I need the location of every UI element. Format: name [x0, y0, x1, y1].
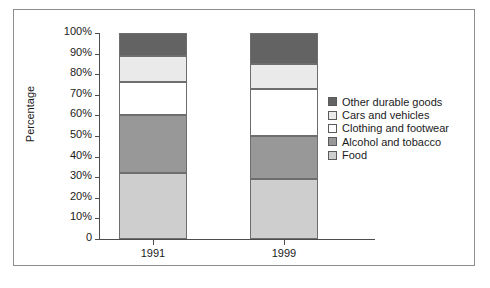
legend-label: Food: [342, 149, 367, 161]
x-axis-line: [99, 239, 375, 240]
y-tick-label: 80%: [70, 66, 92, 78]
y-tick-label: 90%: [70, 46, 92, 58]
chart-legend: Other durable goodsCars and vehiclesClot…: [328, 95, 449, 162]
y-tick-label: 0: [86, 231, 92, 243]
legend-label: Alcohol and tobacco: [342, 136, 441, 148]
bar-segment: [250, 89, 318, 136]
x-tick-label-1999: 1999: [244, 247, 324, 259]
y-tick-label: 100%: [64, 25, 92, 37]
legend-label: Other durable goods: [342, 96, 442, 108]
x-tick-label-1991: 1991: [113, 247, 193, 259]
bar-segment: [119, 115, 187, 173]
bar-segment: [250, 64, 318, 89]
y-tick-label: 20%: [70, 190, 92, 202]
y-tick-mark: [95, 239, 100, 240]
y-tick-label: 70%: [70, 87, 92, 99]
bar-segment: [119, 56, 187, 83]
bar-segment: [250, 33, 318, 64]
legend-item: Food: [328, 149, 449, 162]
x-tick-mark: [153, 240, 154, 245]
y-tick-label: 40%: [70, 149, 92, 161]
y-tick-label: 60%: [70, 107, 92, 119]
legend-swatch: [328, 97, 337, 106]
chart-figure: Percentage 100%90%80%70%60%50%40%30%20%1…: [0, 0, 490, 288]
legend-label: Clothing and footwear: [342, 122, 449, 134]
y-tick-label: 50%: [70, 128, 92, 140]
y-tick-label: 10%: [70, 210, 92, 222]
legend-item: Other durable goods: [328, 95, 449, 108]
legend-swatch: [328, 151, 337, 160]
bar-segment: [119, 173, 187, 239]
legend-swatch: [328, 137, 337, 146]
bar-segment: [119, 33, 187, 56]
bar-segment: [250, 179, 318, 239]
x-tick-mark: [284, 240, 285, 245]
legend-label: Cars and vehicles: [342, 109, 429, 121]
y-tick-label: 30%: [70, 169, 92, 181]
bar-segment: [119, 82, 187, 115]
legend-swatch: [328, 111, 337, 120]
legend-swatch: [328, 124, 337, 133]
y-axis-title: Percentage: [24, 64, 36, 164]
legend-item: Cars and vehicles: [328, 108, 449, 121]
legend-item: Clothing and footwear: [328, 122, 449, 135]
legend-item: Alcohol and tobacco: [328, 135, 449, 148]
bar-segment: [250, 136, 318, 179]
